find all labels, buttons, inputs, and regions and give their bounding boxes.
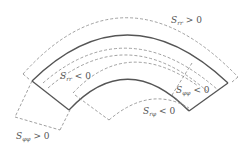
label-sphiphi-positive: Sφφ > 0 [16,131,50,143]
label-srr-positive: Srr > 0 [171,15,202,26]
label-sphiphi-negative: Sφφ < 0 [176,85,210,97]
srr-pos-right-edge [232,77,238,82]
srr-pos-outer-arc [23,18,238,77]
left-solid-edge [32,81,69,110]
srphi-neg-edge [75,95,109,120]
sphiphi-positive-shape [15,81,70,130]
label-srphi-negative: Srφ < 0 [143,106,176,118]
curved-beam-diagram: Srr > 0 Srr < 0 Sφφ < 0 Srφ < 0 Sφφ > 0 [0,0,251,149]
sphiphi-pos-left [15,81,32,117]
sphiphi-pos-bottom [15,117,60,130]
label-srr-negative: Srr < 0 [60,71,91,82]
srr-pos-left-edge [23,74,30,80]
sphiphi-pos-right [60,110,70,130]
